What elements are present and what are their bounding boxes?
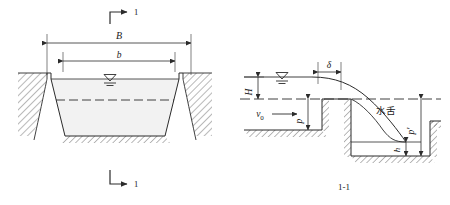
right-view-caption: 1-1 [338, 182, 350, 192]
dimension-b: b [63, 50, 175, 73]
dimension-b-label: b [117, 50, 122, 60]
dimension-H-label: H [244, 87, 254, 96]
nappe-label: 水舌 [376, 105, 396, 116]
dimension-p-upstream: p [294, 99, 308, 130]
section-marker-top-label: 1 [134, 7, 138, 17]
canal-bed-hatch [60, 136, 170, 143]
upstream-bed-hatch [244, 130, 327, 137]
section-marker-top: 1 [110, 7, 138, 24]
section-marker-bottom: 1 [110, 170, 138, 189]
weir-upstream-wall [322, 99, 329, 131]
dimension-h-tailwater: h [392, 142, 406, 156]
canal-water-fill [51, 79, 179, 136]
dimension-p-upstream-label: p [294, 118, 304, 124]
dimension-H: H [244, 77, 264, 99]
dimension-p-downstream-label: p′ [406, 127, 416, 136]
hydraulic-diagram: B b 1 1 [0, 0, 450, 205]
dimension-h-label: h [392, 147, 402, 152]
dimension-delta-label: δ [327, 60, 332, 70]
section-marker-bottom-label: 1 [134, 179, 138, 189]
approach-velocity-arrow: v0 [256, 109, 297, 122]
approach-velocity-label: v0 [256, 109, 264, 122]
dimension-delta: δ [318, 60, 341, 90]
dimension-p-downstream: p′ [406, 99, 421, 156]
left-canal-section: B b 1 1 [18, 7, 212, 189]
diagram-canvas: B b 1 1 [0, 0, 450, 205]
dimension-B-label: B [116, 30, 122, 41]
water-level-symbol-right [276, 73, 288, 84]
right-weir-profile: H δ v0 p p′ [240, 60, 441, 192]
